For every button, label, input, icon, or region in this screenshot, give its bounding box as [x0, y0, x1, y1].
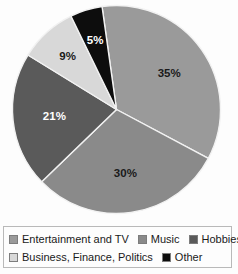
legend-item[interactable]: Entertainment and TV: [9, 233, 129, 245]
legend-item[interactable]: Hobbies: [189, 233, 238, 245]
pie-chart-figure: 35%30%21%9%5% Entertainment and TVMusicH…: [0, 0, 238, 274]
legend-swatch-icon: [9, 253, 18, 262]
legend-swatch-icon: [189, 235, 198, 244]
legend-item-label: Entertainment and TV: [22, 233, 129, 245]
legend-item[interactable]: Music: [138, 233, 180, 245]
legend-row: Entertainment and TVMusicHobbies: [9, 230, 227, 248]
pie-svg: 35%30%21%9%5%: [0, 0, 238, 218]
pie-plot-area: 35%30%21%9%5%: [0, 0, 238, 218]
legend-item-label: Hobbies: [202, 233, 238, 245]
legend-item[interactable]: Other: [162, 251, 203, 263]
legend-item-label: Music: [151, 233, 180, 245]
legend-row: Business, Finance, PoliticsOther: [9, 248, 227, 266]
pie-slice-value-label: 21%: [43, 110, 66, 122]
legend-item[interactable]: Business, Finance, Politics: [9, 251, 153, 263]
legend-swatch-icon: [162, 253, 171, 262]
chart-legend: Entertainment and TVMusicHobbiesBusiness…: [3, 226, 232, 268]
pie-slice-value-label: 35%: [158, 67, 181, 79]
legend-swatch-icon: [9, 235, 18, 244]
legend-item-label: Business, Finance, Politics: [22, 251, 153, 263]
legend-swatch-icon: [138, 235, 147, 244]
legend-item-label: Other: [175, 251, 203, 263]
pie-slice-value-label: 5%: [87, 34, 104, 46]
pie-slice-value-label: 9%: [59, 50, 76, 62]
pie-slice-value-label: 30%: [114, 167, 137, 179]
